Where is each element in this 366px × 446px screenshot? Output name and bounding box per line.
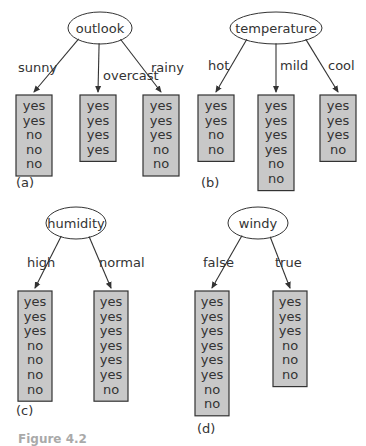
leaf-class-value: no xyxy=(208,127,224,142)
leaf-class-value: no xyxy=(282,338,298,353)
branch-label-mild: mild xyxy=(280,58,308,73)
leaf-class-value: no xyxy=(208,142,224,157)
leaf-class-value: yes xyxy=(87,127,110,142)
leaf-class-value: yes xyxy=(265,113,288,128)
branch-label-sunny: sunny xyxy=(18,60,57,75)
leaf-class-value: no xyxy=(26,156,42,171)
leaf-class-value: no xyxy=(27,352,43,367)
leaf-class-value: yes xyxy=(201,309,224,324)
leaf-class-value: yes xyxy=(100,294,123,309)
leaf-class-value: no xyxy=(103,382,119,397)
panel-label: (b) xyxy=(201,175,219,190)
leaf-class-value: no xyxy=(268,171,284,186)
attribute-label: humidity xyxy=(47,216,105,231)
leaf-class-value: no xyxy=(282,367,298,382)
root-node-temperature: temperature xyxy=(230,12,322,44)
attribute-label: temperature xyxy=(235,21,317,36)
leaf-class-value: no xyxy=(26,127,42,142)
leaf-class-value: yes xyxy=(87,98,110,113)
figure-caption: Figure 4.2 xyxy=(18,432,87,446)
leaf-node: yesyesnono xyxy=(198,95,234,161)
leaf-class-value: yes xyxy=(279,323,302,338)
leaf-node: yesyesyesno xyxy=(320,95,356,161)
leaf-class-value: yes xyxy=(279,294,302,309)
leaf-class-value: yes xyxy=(150,113,173,128)
leaf-class-value: yes xyxy=(265,127,288,142)
leaf-class-value: yes xyxy=(150,98,173,113)
panel-label: (c) xyxy=(16,403,33,418)
branch-label-hot: hot xyxy=(208,58,229,73)
branch-label-cool: cool xyxy=(328,58,355,73)
leaf-node: yesyesyesyes xyxy=(80,95,116,161)
leaf-class-value: no xyxy=(204,396,220,411)
leaf-class-value: yes xyxy=(100,338,123,353)
leaf-class-value: yes xyxy=(201,367,224,382)
leaf-class-value: yes xyxy=(150,127,173,142)
leaf-node: yesyesyesyesyesyesno xyxy=(94,291,128,401)
branch-label-rainy: rainy xyxy=(151,60,184,75)
stump-humidity: humidityhighyesyesyesnononononormalyesye… xyxy=(16,207,145,418)
leaf-class-value: no xyxy=(26,142,42,157)
stump-temperature: temperaturehotyesyesnonomildyesyesyesyes… xyxy=(198,12,356,191)
leaf-class-value: yes xyxy=(24,294,47,309)
branch-label-false: false xyxy=(203,255,234,270)
leaf-class-value: yes xyxy=(279,309,302,324)
root-node-humidity: humidity xyxy=(46,207,106,239)
branch-label-normal: normal xyxy=(99,255,145,270)
leaf-class-value: yes xyxy=(265,98,288,113)
leaf-class-value: no xyxy=(27,367,43,382)
leaf-node: yesyesyesyesyesyesnono xyxy=(195,291,229,416)
attribute-label: outlook xyxy=(76,21,125,36)
stump-outlook: outlooksunnyyesyesnononoovercastyesyesye… xyxy=(16,12,184,190)
leaf-class-value: yes xyxy=(205,113,228,128)
leaf-class-value: yes xyxy=(23,98,46,113)
leaf-class-value: yes xyxy=(87,113,110,128)
branch-label-high: high xyxy=(27,255,55,270)
leaf-class-value: yes xyxy=(327,98,350,113)
leaf-class-value: yes xyxy=(205,98,228,113)
stump-windy: windyfalseyesyesyesyesyesyesnonotrueyesy… xyxy=(195,207,307,436)
leaf-node: yesyesyesnono xyxy=(143,95,179,176)
panel-label: (d) xyxy=(197,421,215,436)
root-node-outlook: outlook xyxy=(68,12,132,44)
leaf-node: yesyesyesyesnono xyxy=(258,95,294,191)
leaf-class-value: yes xyxy=(201,294,224,309)
leaf-class-value: yes xyxy=(23,113,46,128)
branch-label-true: true xyxy=(275,255,302,270)
leaf-class-value: yes xyxy=(24,309,47,324)
leaf-node: yesyesyesnonono xyxy=(273,291,307,387)
leaf-class-value: no xyxy=(268,156,284,171)
leaf-class-value: yes xyxy=(24,323,47,338)
leaf-class-value: no xyxy=(27,338,43,353)
leaf-class-value: no xyxy=(282,352,298,367)
leaf-node: yesyesnonono xyxy=(16,95,52,176)
leaf-class-value: yes xyxy=(87,142,110,157)
leaf-class-value: yes xyxy=(265,142,288,157)
leaf-class-value: yes xyxy=(327,127,350,142)
leaf-class-value: yes xyxy=(100,352,123,367)
leaf-class-value: yes xyxy=(201,352,224,367)
leaf-class-value: yes xyxy=(100,309,123,324)
leaf-class-value: no xyxy=(153,156,169,171)
panel-label: (a) xyxy=(16,175,34,190)
leaf-class-value: yes xyxy=(201,323,224,338)
leaf-class-value: no xyxy=(27,382,43,397)
branch-edge xyxy=(98,43,99,92)
leaf-node: yesyesyesnononono xyxy=(18,291,52,401)
leaf-class-value: yes xyxy=(100,367,123,382)
leaf-class-value: no xyxy=(330,142,346,157)
leaf-class-value: yes xyxy=(201,338,224,353)
leaf-class-value: no xyxy=(204,382,220,397)
leaf-class-value: yes xyxy=(327,113,350,128)
attribute-label: windy xyxy=(239,216,278,231)
root-node-windy: windy xyxy=(228,207,288,239)
leaf-class-value: yes xyxy=(100,323,123,338)
leaf-class-value: no xyxy=(153,142,169,157)
